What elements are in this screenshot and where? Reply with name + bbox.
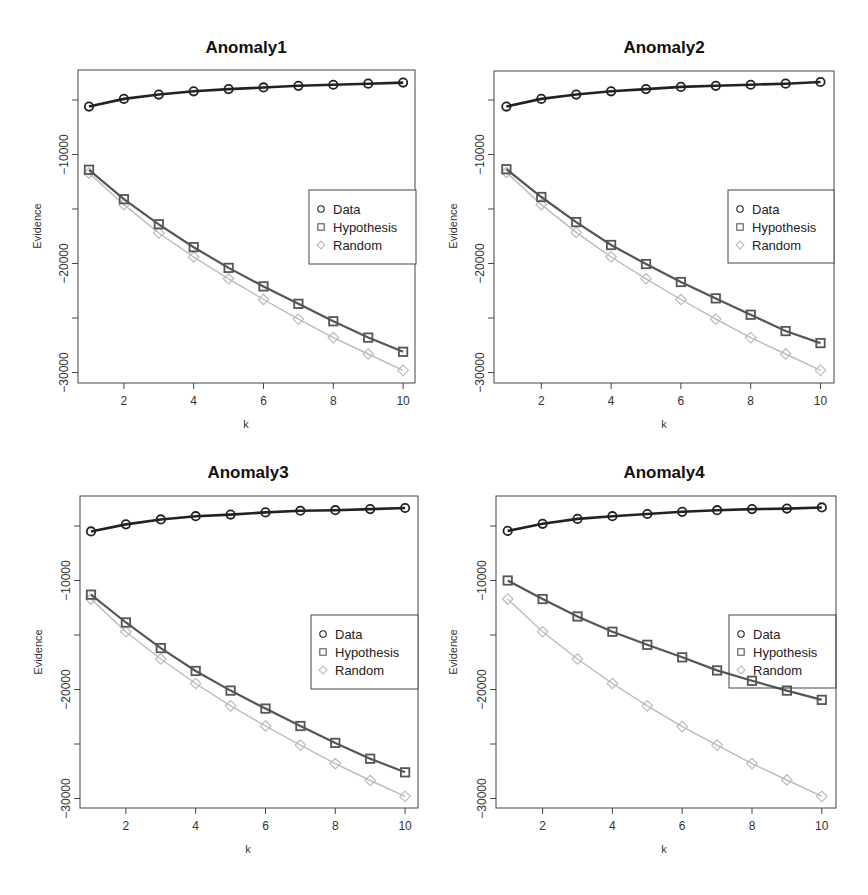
chart-title: Anomaly3 [207, 463, 288, 482]
figure-grid: Anomaly1 −10000−20000−30000 246810 k Evi… [0, 0, 868, 895]
y-tick-label: −10000 [473, 134, 487, 175]
legend: DataHypothesisRandom [728, 190, 834, 263]
x-tick-label: 4 [609, 819, 616, 833]
legend-label: Data [335, 627, 363, 642]
x-axis: 246810 [123, 808, 413, 833]
y-tick-label: −30000 [57, 352, 71, 393]
series-data [504, 503, 827, 535]
y-tick-label: −30000 [475, 778, 489, 819]
x-tick-label: 2 [121, 394, 128, 408]
x-tick-label: 6 [262, 819, 269, 833]
chart-anomaly1: Anomaly1 −10000−20000−30000 246810 k Evi… [31, 38, 416, 430]
series-line [89, 83, 403, 107]
x-tick-label: 2 [123, 819, 130, 833]
legend: DataHypothesisRandom [729, 615, 836, 688]
chart-anomaly2: Anomaly2 −10000−20000−30000 246810 k Evi… [447, 38, 834, 430]
x-tick-label: 8 [332, 819, 339, 833]
legend: DataHypothesisRandom [309, 190, 416, 264]
x-tick-label: 8 [747, 394, 754, 408]
x-tick-label: 8 [330, 394, 337, 408]
legend-label: Random [333, 238, 382, 253]
y-axis-label: Evidence [32, 629, 44, 674]
x-tick-label: 6 [679, 819, 686, 833]
series-data [87, 504, 410, 536]
diamond-marker-icon [815, 365, 826, 376]
series-line [508, 508, 822, 531]
diamond-marker-icon [398, 365, 409, 376]
x-axis: 246810 [539, 808, 829, 833]
y-axis: −10000−20000−30000 [57, 100, 78, 393]
y-axis-label: Evidence [447, 203, 459, 248]
diamond-marker-icon [737, 666, 745, 674]
legend-label: Random [752, 238, 801, 253]
legend-label: Hypothesis [335, 645, 400, 660]
series-random [502, 594, 827, 802]
y-tick-label: −20000 [473, 243, 487, 284]
x-tick-label: 4 [192, 819, 199, 833]
legend-label: Random [335, 663, 384, 678]
x-tick-label: 2 [538, 394, 545, 408]
legend-item-hypothesis: Hypothesis [738, 645, 818, 660]
legend: DataHypothesisRandom [311, 615, 418, 689]
legend-label: Hypothesis [753, 645, 818, 660]
y-tick-label: −10000 [475, 560, 489, 601]
x-axis-label: k [661, 843, 667, 855]
diamond-marker-icon [817, 791, 828, 802]
y-tick-label: −20000 [475, 669, 489, 710]
y-tick-label: −10000 [59, 560, 73, 601]
square-marker-icon [401, 768, 409, 776]
series-line [506, 82, 820, 107]
y-tick-label: −20000 [57, 243, 71, 284]
chart-title: Anomaly4 [623, 463, 705, 482]
chart-anomaly4: Anomaly4 −10000−20000−30000 246810 k Evi… [447, 463, 836, 855]
series-data [85, 78, 408, 110]
x-tick-label: 6 [260, 394, 267, 408]
square-marker-icon [738, 649, 744, 655]
y-axis: −10000−20000−30000 [475, 526, 496, 819]
x-tick-label: 8 [749, 819, 756, 833]
legend-label: Hypothesis [752, 220, 817, 235]
legend-label: Data [752, 202, 780, 217]
chart-anomaly3: Anomaly3 −10000−20000−30000 246810 k Evi… [32, 463, 418, 855]
x-axis-label: k [245, 843, 251, 855]
y-axis-label: Evidence [31, 203, 43, 248]
y-tick-label: −30000 [59, 778, 73, 819]
y-tick-label: −20000 [59, 669, 73, 710]
x-tick-label: 4 [608, 394, 615, 408]
x-tick-label: 6 [678, 394, 685, 408]
legend-label: Data [333, 202, 361, 217]
x-axis: 246810 [121, 383, 411, 408]
x-tick-label: 10 [815, 819, 829, 833]
y-axis: −10000−20000−30000 [59, 526, 80, 819]
x-axis-label: k [243, 418, 249, 430]
x-tick-label: 2 [539, 819, 546, 833]
series-line [91, 508, 405, 532]
legend-label: Random [753, 663, 802, 678]
x-axis: 246810 [538, 383, 828, 408]
circle-marker-icon [738, 631, 744, 637]
legend-label: Data [753, 627, 781, 642]
x-tick-label: 10 [398, 819, 412, 833]
x-tick-label: 4 [190, 394, 197, 408]
legend-label: Hypothesis [333, 220, 398, 235]
y-tick-label: −30000 [473, 352, 487, 393]
x-tick-label: 10 [396, 394, 410, 408]
y-tick-label: −10000 [57, 134, 71, 175]
y-axis-label: Evidence [447, 629, 459, 674]
x-axis-label: k [661, 418, 667, 430]
legend-item-data: Data [738, 627, 781, 642]
chart-title: Anomaly2 [623, 38, 704, 57]
y-axis: −10000−20000−30000 [473, 100, 494, 393]
diamond-marker-icon [400, 791, 411, 802]
series-data [502, 78, 825, 111]
chart-title: Anomaly1 [205, 38, 286, 57]
x-tick-label: 10 [814, 394, 828, 408]
legend-item-random: Random [737, 663, 802, 678]
